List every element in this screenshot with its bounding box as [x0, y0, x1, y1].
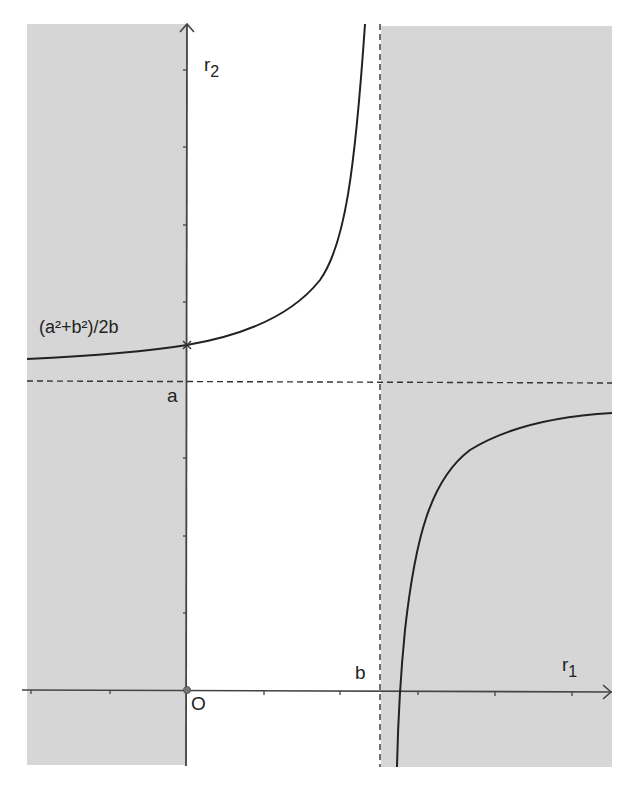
intercept-label: (a²+b²)/2b [39, 318, 119, 336]
hyperbola-diagram [0, 0, 639, 791]
shaded-region-right [381, 26, 612, 767]
x-axis-label-subscript: 1 [568, 663, 577, 680]
b-label: b [355, 663, 366, 682]
shaded-region-left [27, 24, 187, 765]
y-axis [186, 24, 187, 766]
y-axis-label: r2 [204, 55, 219, 74]
y-axis-label-subscript: 2 [210, 63, 219, 80]
origin-label: O [191, 694, 206, 713]
origin-point [184, 687, 191, 694]
a-label: a [167, 386, 178, 405]
x-axis-label: r1 [562, 655, 577, 674]
